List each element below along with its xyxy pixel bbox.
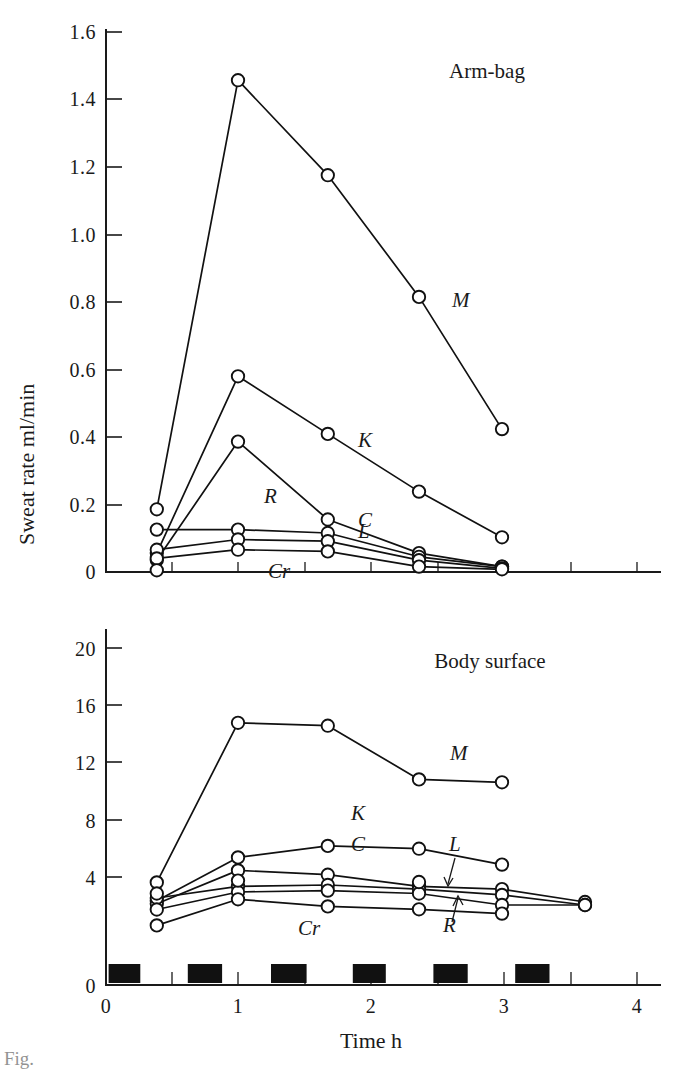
ytick-label: 8 <box>86 810 97 832</box>
bout-bar <box>515 964 549 983</box>
data-point <box>232 893 244 905</box>
series-label-Cr: Cr <box>298 916 321 940</box>
data-point <box>413 903 425 915</box>
series-label-R: R <box>263 484 277 508</box>
xtick-label: 2 <box>366 995 377 1017</box>
series-L-body-surface: L <box>151 832 592 911</box>
ytick-label: 16 <box>75 695 96 717</box>
data-point <box>232 435 244 447</box>
series-label-L: L <box>357 519 370 543</box>
data-point <box>151 903 163 915</box>
y-axis-title: Sweat rate ml/min <box>14 384 39 545</box>
series-label-K: K <box>350 801 366 825</box>
data-point <box>496 531 508 543</box>
data-point <box>322 545 334 557</box>
ytick-label: 1.0 <box>70 224 97 246</box>
time-axis-tick-labels: 0 1 2 3 4 <box>101 995 643 1017</box>
ytick-label: 1.6 <box>70 21 97 43</box>
data-point <box>413 485 425 497</box>
data-point <box>151 503 163 515</box>
ytick-label: 0 <box>86 975 97 997</box>
data-point <box>413 843 425 855</box>
data-point <box>413 560 425 572</box>
series-label-M: M <box>449 741 469 765</box>
bout-bar <box>109 964 141 983</box>
ytick-label: 0.6 <box>70 359 97 381</box>
data-point <box>496 423 508 435</box>
data-point <box>322 840 334 852</box>
data-point <box>413 291 425 303</box>
xtick-label: 3 <box>499 995 510 1017</box>
data-point <box>151 523 163 535</box>
data-point <box>322 720 334 732</box>
panel-title-body-surface: Body surface <box>434 649 545 673</box>
data-point <box>151 919 163 931</box>
data-point <box>496 907 508 919</box>
data-point <box>413 773 425 785</box>
ytick-label: 0.8 <box>70 291 97 313</box>
data-point <box>151 552 163 564</box>
panel-body-surface: 20 16 12 8 4 0 0 1 2 <box>75 630 660 1017</box>
bout-bar <box>271 964 307 983</box>
series-label-K: K <box>357 428 373 452</box>
data-point <box>322 900 334 912</box>
series-label-C: C <box>351 832 366 856</box>
ytick-label: 0.2 <box>70 494 97 516</box>
time-axis-ticks <box>172 972 637 985</box>
series-M-body-surface: M <box>151 717 509 889</box>
caption-text: Fig. <box>0 1048 677 1069</box>
data-point <box>232 717 244 729</box>
data-point <box>232 370 244 382</box>
data-point <box>322 169 334 181</box>
data-point <box>413 876 425 888</box>
panel-arm-bag: 1.6 1.4 1.2 1.0 0.8 0.6 0.4 0.2 0 <box>70 21 661 583</box>
bout-bar <box>433 964 467 983</box>
xtick-label: 4 <box>632 995 643 1017</box>
data-point <box>232 544 244 556</box>
body-surface-y-tick-labels: 20 16 12 8 4 0 <box>75 638 96 997</box>
sweat-rate-figure: 1.6 1.4 1.2 1.0 0.8 0.6 0.4 0.2 0 <box>0 0 677 1069</box>
data-point <box>322 884 334 896</box>
data-point <box>413 887 425 899</box>
figure-root: 1.6 1.4 1.2 1.0 0.8 0.6 0.4 0.2 0 <box>0 0 677 1069</box>
xtick-label: 0 <box>101 995 112 1017</box>
data-point <box>232 74 244 86</box>
series-label-L: L <box>448 832 461 856</box>
data-point <box>232 874 244 886</box>
ytick-label: 1.4 <box>70 88 97 110</box>
bout-bar <box>353 964 386 983</box>
body-surface-y-ticks <box>106 648 122 877</box>
data-point-baseline <box>151 564 163 576</box>
arrowhead-R <box>453 896 463 906</box>
data-point <box>151 887 163 899</box>
data-point <box>496 776 508 788</box>
ytick-label: 12 <box>75 752 96 774</box>
ytick-label: 4 <box>86 867 97 889</box>
xtick-label: 1 <box>233 995 244 1017</box>
ytick-label: 0.4 <box>70 426 97 448</box>
bout-bar <box>188 964 222 983</box>
ytick-label: 1.2 <box>70 156 97 178</box>
data-point <box>232 851 244 863</box>
exercise-bout-bars <box>109 964 550 983</box>
data-point <box>579 899 591 911</box>
data-point <box>322 428 334 440</box>
series-label-Cr: Cr <box>268 559 291 583</box>
data-point <box>322 513 334 525</box>
data-point <box>496 563 508 575</box>
panel-title-arm-bag: Arm-bag <box>449 59 525 83</box>
arm-bag-y-ticks <box>106 32 122 505</box>
ytick-label: 20 <box>75 638 96 660</box>
data-point <box>496 858 508 870</box>
arm-bag-y-tick-labels: 1.6 1.4 1.2 1.0 0.8 0.6 0.4 0.2 0 <box>70 21 97 583</box>
series-label-M: M <box>451 288 471 312</box>
caption-strip: Fig. <box>0 1048 677 1069</box>
ytick-label: 0 <box>86 561 97 583</box>
